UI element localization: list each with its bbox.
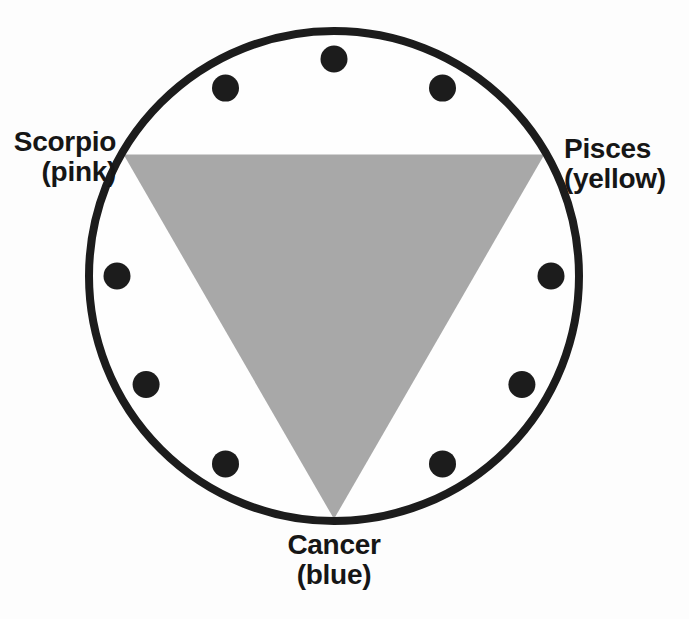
zodiac-dot [538,263,565,290]
trine-figure [0,0,689,619]
cancer-color-note: (blue) [234,560,434,590]
zodiac-dot [212,75,239,102]
diagram-page: Scorpio (pink) Pisces (yellow) Cancer (b… [0,0,689,619]
zodiac-dot [429,450,456,477]
pisces-sign-name: Pisces [564,134,689,164]
zodiac-dot [133,371,160,398]
pisces-color-note: (yellow) [564,164,689,194]
zodiac-dot [212,450,239,477]
cancer-label: Cancer (blue) [234,530,434,590]
scorpio-sign-name: Scorpio [0,127,116,157]
pisces-label: Pisces (yellow) [564,134,689,194]
scorpio-color-note: (pink) [0,157,116,187]
zodiac-dot [321,46,348,73]
cancer-sign-name: Cancer [234,530,434,560]
scorpio-label: Scorpio (pink) [0,127,116,187]
zodiac-dot [104,263,131,290]
zodiac-dot [429,75,456,102]
zodiac-dot [508,371,535,398]
